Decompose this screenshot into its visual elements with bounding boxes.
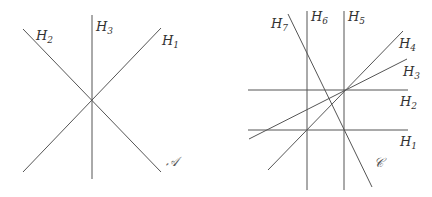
hyperplane-label-h4: H4: [398, 36, 416, 53]
hyperplane-label-h3: H3: [95, 19, 113, 36]
hyperplane-arrangements-diagram: H1H2H3𝒜H1H2H3H4H5H6H7𝒞: [0, 0, 432, 197]
hyperplane-label-h7: H7: [270, 16, 288, 33]
hyperplane-label-h2: H2: [399, 94, 417, 111]
hyperplane-label-h1: H1: [161, 33, 179, 50]
hyperplane-label-h6: H6: [310, 9, 328, 26]
hyperplane-h3: [249, 59, 407, 139]
arrangement-name-a: 𝒜: [166, 154, 182, 169]
hyperplane-label-h1: H1: [399, 134, 417, 151]
arrangement-name-c: 𝒞: [374, 155, 387, 170]
arrangement-a: H1H2H3𝒜: [23, 15, 182, 179]
arrangement-c: H1H2H3H4H5H6H7𝒞: [248, 9, 420, 190]
hyperplane-h4: [268, 31, 403, 170]
hyperplane-label-h2: H2: [35, 28, 53, 45]
hyperplane-h7: [288, 14, 372, 187]
hyperplane-label-h5: H5: [347, 9, 365, 26]
hyperplane-label-h3: H3: [402, 64, 420, 81]
